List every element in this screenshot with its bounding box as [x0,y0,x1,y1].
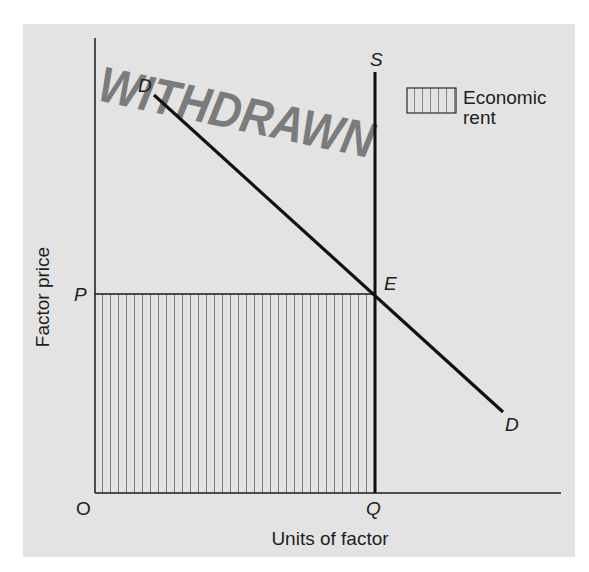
withdrawn-stamp: WITHDRAWN [94,56,380,169]
legend-label-line2: rent [463,107,496,128]
legend-swatch [407,88,456,113]
demand-label-top: D [138,75,152,96]
economic-rent-diagram: WITHDRAWN S D D E P Q O Units of factor … [0,0,589,572]
price-label: P [74,284,87,305]
supply-label: S [370,49,383,70]
equilibrium-label: E [384,273,397,294]
legend-label-line1: Economic [463,87,546,108]
quantity-label: Q [366,498,381,519]
withdrawn-stamp-text: WITHDRAWN [94,56,380,169]
origin-label: O [76,498,91,519]
x-axis-label: Units of factor [271,528,389,549]
legend: Economic rent [407,87,546,128]
economic-rent-area [95,294,375,493]
demand-label-bottom: D [505,414,519,435]
y-axis-label: Factor price [32,247,53,347]
